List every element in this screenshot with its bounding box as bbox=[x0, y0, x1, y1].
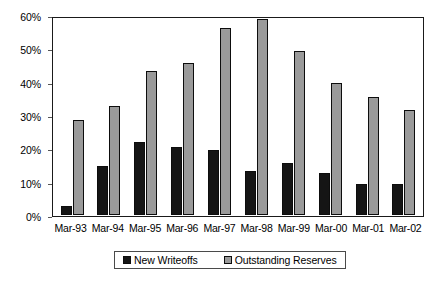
bar-reserves-mar-95 bbox=[146, 71, 157, 215]
bar-group bbox=[90, 19, 127, 216]
bar-group bbox=[312, 19, 349, 216]
x-axis-tick-label: Mar-00 bbox=[312, 222, 349, 240]
bar-group bbox=[127, 19, 164, 216]
x-axis-tick-label: Mar-94 bbox=[89, 222, 126, 240]
bar-group bbox=[201, 19, 238, 216]
y-axis-tick-label: 50% bbox=[20, 45, 41, 55]
bar-reserves-mar-97 bbox=[220, 28, 231, 215]
legend-label: Outstanding Reserves bbox=[235, 255, 337, 266]
bar-chart: 0%10%20%30%40%50%60% Mar-93Mar-94Mar-95M… bbox=[0, 0, 437, 281]
bar-writeoffs-mar-97 bbox=[208, 150, 219, 216]
bar-writeoffs-mar-99 bbox=[282, 163, 293, 215]
x-axis-tick-label: Mar-02 bbox=[387, 222, 424, 240]
x-axis: Mar-93Mar-94Mar-95Mar-96Mar-97Mar-98Mar-… bbox=[52, 222, 424, 240]
bar-reserves-mar-02 bbox=[404, 110, 415, 215]
bar-reserves-mar-93 bbox=[73, 120, 84, 215]
y-axis-tick-mark bbox=[48, 217, 52, 218]
bar-groups bbox=[54, 19, 423, 216]
x-axis-tick-label: Mar-01 bbox=[350, 222, 387, 240]
y-axis-tick-label: 60% bbox=[20, 12, 41, 22]
bar-group bbox=[275, 19, 312, 216]
bar-reserves-mar-00 bbox=[331, 83, 342, 216]
bar-group bbox=[349, 19, 386, 216]
x-axis-tick-label: Mar-96 bbox=[164, 222, 201, 240]
bar-reserves-mar-98 bbox=[257, 19, 268, 216]
legend-entry: Outstanding Reserves bbox=[224, 255, 337, 266]
bar-writeoffs-mar-96 bbox=[171, 147, 182, 216]
bar-writeoffs-mar-95 bbox=[134, 142, 145, 216]
y-axis-tick-label: 40% bbox=[20, 79, 41, 89]
bar-group bbox=[238, 19, 275, 216]
plot-area bbox=[54, 19, 423, 216]
x-axis-tick-label: Mar-95 bbox=[126, 222, 163, 240]
bar-writeoffs-mar-98 bbox=[245, 171, 256, 215]
bar-group bbox=[54, 19, 91, 216]
x-axis-tick-label: Mar-93 bbox=[52, 222, 89, 240]
y-axis-tick-label: 20% bbox=[20, 145, 41, 155]
legend-swatch-icon bbox=[123, 256, 131, 264]
bar-group bbox=[385, 19, 422, 216]
x-axis-tick-label: Mar-97 bbox=[201, 222, 238, 240]
legend-label: New Writeoffs bbox=[134, 255, 198, 266]
y-axis-tick-label: 10% bbox=[20, 179, 41, 189]
bar-group bbox=[164, 19, 201, 216]
y-axis: 0%10%20%30%40%50%60% bbox=[0, 0, 48, 281]
x-axis-tick-label: Mar-99 bbox=[275, 222, 312, 240]
legend-entry: New Writeoffs bbox=[123, 255, 198, 266]
bar-reserves-mar-99 bbox=[294, 51, 305, 215]
y-axis-tick-label: 30% bbox=[20, 112, 41, 122]
bar-writeoffs-mar-01 bbox=[356, 184, 367, 215]
bar-writeoffs-mar-94 bbox=[97, 166, 108, 215]
bar-reserves-mar-01 bbox=[368, 97, 379, 215]
legend-swatch-icon bbox=[224, 256, 232, 264]
bar-reserves-mar-96 bbox=[183, 63, 194, 216]
y-axis-tick-label: 0% bbox=[26, 212, 41, 222]
chart-legend: New WriteoffsOutstanding Reserves bbox=[114, 251, 346, 269]
bar-writeoffs-mar-02 bbox=[392, 184, 403, 215]
bar-reserves-mar-94 bbox=[109, 106, 120, 216]
bar-writeoffs-mar-93 bbox=[61, 206, 72, 216]
bar-writeoffs-mar-00 bbox=[319, 173, 330, 216]
x-axis-tick-label: Mar-98 bbox=[238, 222, 275, 240]
